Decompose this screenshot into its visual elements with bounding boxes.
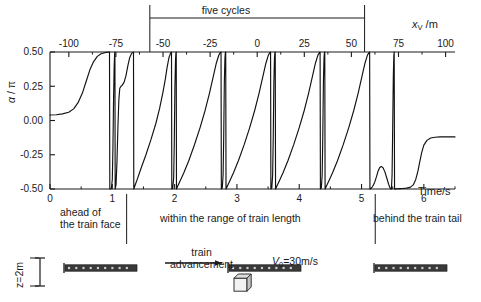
train-window <box>400 267 402 269</box>
train-advancement-line1: train <box>170 247 233 259</box>
height-scale-label: z=2m <box>14 262 25 288</box>
y-tick-label: -0.25 <box>20 149 43 160</box>
x-tick-label: 2 <box>172 193 178 204</box>
region-caption-ahead: ahead of the train face <box>60 207 121 230</box>
figure-root: -0.50-0.250.000.250.500123456-100-75-50-… <box>0 0 481 302</box>
region-ahead-line1: ahead of <box>60 207 121 219</box>
y-axis-alpha: α <box>5 97 17 103</box>
x-axis-title: Time/s <box>418 186 451 197</box>
cube-icon <box>234 274 251 291</box>
x-tick-label: 4 <box>296 193 302 204</box>
top-axis-title: xV /m <box>412 19 438 31</box>
train-window <box>246 267 248 269</box>
train-window <box>407 267 409 269</box>
train-window <box>378 267 380 269</box>
speed-symbol: V <box>272 255 279 267</box>
train-window <box>385 267 387 269</box>
train-window <box>104 267 106 269</box>
x-tick-label: 3 <box>234 193 240 204</box>
vertical-scale-icon <box>30 258 45 286</box>
train-window <box>429 267 431 269</box>
region-ahead-line2: the train face <box>60 219 121 231</box>
y-axis-slash: / <box>5 88 17 97</box>
plot-svg: -0.50-0.250.000.250.500123456-100-75-50-… <box>0 0 481 302</box>
train-window <box>68 267 70 269</box>
x-tick-label: 0 <box>47 193 53 204</box>
top-tick-label: 25 <box>299 38 311 49</box>
train-icon-left <box>64 263 137 273</box>
y-tick-label: 0.50 <box>24 46 44 57</box>
y-tick-label: 0.25 <box>24 81 44 92</box>
train-icon-right <box>374 263 447 273</box>
train-window <box>436 267 438 269</box>
train-window <box>421 267 423 269</box>
top-tick-label: 100 <box>437 38 454 49</box>
y-axis-title: α / π <box>6 81 17 103</box>
train-window <box>392 267 394 269</box>
train-window <box>414 267 416 269</box>
train-advancement-label: train advancement <box>170 247 233 270</box>
train-window <box>268 267 270 269</box>
top-axis-title-unit: /m <box>423 18 438 30</box>
train-window <box>97 267 99 269</box>
y-axis-pi: π <box>5 81 17 88</box>
train-window <box>126 267 128 269</box>
alpha-phase-curve <box>50 52 455 189</box>
train-window <box>261 267 263 269</box>
top-tick-label: -100 <box>59 38 79 49</box>
region-caption-behind: behind the train tail <box>373 213 462 225</box>
train-window <box>239 267 241 269</box>
cube-front <box>234 278 247 291</box>
train-window <box>111 267 113 269</box>
top-tick-label: 0 <box>254 38 260 49</box>
axes-group: -0.50-0.250.000.250.500123456-100-75-50-… <box>20 38 455 204</box>
speed-value: =30m/s <box>283 255 318 267</box>
train-advancement-line2: advancement <box>170 259 233 271</box>
top-tick-label: -25 <box>203 38 218 49</box>
train-window <box>254 267 256 269</box>
y-tick-label: 0.00 <box>24 115 44 126</box>
data-curve-group <box>50 52 455 189</box>
top-tick-label: -75 <box>109 38 124 49</box>
x-tick-label: 1 <box>110 193 116 204</box>
train-window <box>82 267 84 269</box>
region-caption-within: within the range of train length <box>160 213 301 225</box>
top-tick-label: 75 <box>393 38 405 49</box>
train-speed-label: V0=30m/s <box>272 256 318 268</box>
decorations-group <box>30 5 447 291</box>
train-window <box>75 267 77 269</box>
x-tick-label: 5 <box>359 193 365 204</box>
five-cycles-label: five cycles <box>202 5 250 16</box>
top-tick-label: 50 <box>346 38 358 49</box>
train-window <box>90 267 92 269</box>
top-tick-label: -50 <box>156 38 171 49</box>
y-tick-label: -0.50 <box>20 183 43 194</box>
train-window <box>119 267 121 269</box>
